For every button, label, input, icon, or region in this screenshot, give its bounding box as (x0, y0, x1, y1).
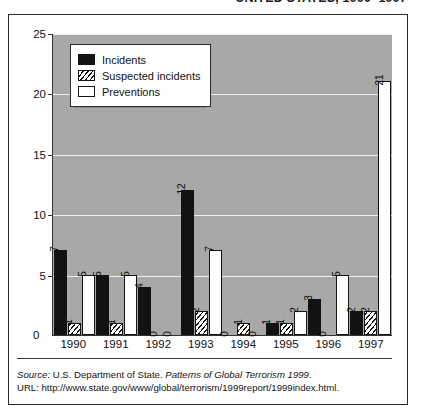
bar-value-1995-suspected: 1 (276, 319, 286, 325)
y-tick-mark-5 (48, 276, 52, 277)
bar-value-1990-incidents: 7 (50, 247, 60, 253)
y-tick-mark-15 (48, 155, 52, 156)
bar-1993-suspected: 2 (195, 311, 208, 335)
bar-value-1992-incidents: 4 (135, 283, 145, 289)
y-axis-zero-label: 0 (33, 329, 39, 341)
bar-1997-suspected: 2 (364, 311, 377, 335)
bar-1997-incidents: 2 (350, 311, 363, 335)
bar-value-1994-preventions: 0 (248, 331, 258, 337)
bar-1996-incidents: 3 (308, 299, 321, 335)
footnote-source-body: U.S. Department of State. (50, 369, 165, 380)
x-axis-label-1991: 1991 (95, 338, 138, 350)
bar-value-1993-preventions: 7 (205, 247, 215, 253)
bar-value-1992-suspected: 0 (149, 331, 159, 337)
bar-value-1996-incidents: 3 (304, 295, 314, 301)
x-axis-label-1994: 1994 (222, 338, 265, 350)
bar-group-1995: 112 (265, 34, 307, 335)
bar-group-1996: 305 (307, 34, 349, 335)
y-tick-label-5: 5 (40, 270, 46, 282)
footnote-source-italic: Patterns of Global Terrorism 1999 (165, 369, 309, 380)
bar-value-1994-incidents: 0 (220, 331, 230, 337)
chart-title-strip: UNITED STATES, 1990–1997 (0, 0, 421, 13)
plot-wrapper: 71551540012270101123052221 510152025 Inc… (52, 34, 392, 336)
y-tick-label-20: 20 (33, 88, 46, 100)
bar-1991-suspected: 1 (110, 323, 123, 335)
x-axis-label-1990: 1990 (52, 338, 95, 350)
x-axis-label-1996: 1996 (307, 338, 350, 350)
chart-legend: IncidentsSuspected incidentsPreventions (70, 44, 211, 107)
bar-value-1995-incidents: 1 (262, 319, 272, 325)
bar-group-1997: 2221 (350, 34, 392, 335)
x-axis-label-1993: 1993 (180, 338, 223, 350)
legend-swatch-incidents-icon (78, 54, 95, 65)
figure-frame: 71551540012270101123052221 510152025 Inc… (8, 14, 408, 405)
legend-label-suspected: Suspected incidents (102, 70, 200, 82)
footnote-url[interactable]: http://www.state.gov/www/global/terroris… (39, 382, 339, 393)
bar-value-1990-preventions: 5 (78, 271, 88, 277)
legend-swatch-preventions-icon (78, 86, 95, 97)
footnote-block: Source: U.S. Department of State. Patter… (17, 358, 397, 394)
y-tick-mark-20 (48, 94, 52, 95)
footnote-source-prefix: Source: (17, 369, 50, 380)
bar-1993-preventions: 7 (209, 250, 222, 335)
chart-title: UNITED STATES, 1990–1997 (0, 0, 421, 5)
bar-1990-suspected: 1 (68, 323, 81, 335)
x-axis-label-1992: 1992 (137, 338, 180, 350)
bar-1993-incidents: 12 (181, 190, 194, 335)
legend-item-suspected: Suspected incidents (78, 68, 200, 83)
bar-1991-incidents: 5 (96, 275, 109, 335)
x-axis-labels: 19901991199219931994199519961997 (52, 338, 392, 350)
bar-1995-suspected: 1 (280, 323, 293, 335)
legend-label-preventions: Preventions (102, 86, 160, 98)
footnote-source-suffix: . (309, 369, 312, 380)
y-tick-label-10: 10 (33, 209, 46, 221)
bar-value-1992-preventions: 0 (163, 331, 173, 337)
bar-value-1997-incidents: 2 (347, 307, 357, 313)
x-axis-label-1997: 1997 (350, 338, 393, 350)
legend-label-incidents: Incidents (102, 54, 146, 66)
footnote-divider (17, 358, 392, 359)
bar-value-1993-suspected: 2 (191, 307, 201, 313)
bar-value-1991-incidents: 5 (93, 271, 103, 277)
bar-value-1994-suspected: 1 (234, 319, 244, 325)
bar-value-1995-preventions: 2 (290, 307, 300, 313)
footnote-source-line: Source: U.S. Department of State. Patter… (17, 368, 397, 381)
y-tick-label-15: 15 (33, 149, 46, 161)
footnote-url-prefix: URL: (17, 382, 39, 393)
bar-1990-preventions: 5 (82, 275, 95, 335)
chart-page: UNITED STATES, 1990–1997 715515400122701… (0, 0, 421, 420)
x-axis-label-1995: 1995 (265, 338, 308, 350)
bar-value-1991-suspected: 1 (107, 319, 117, 325)
bar-value-1990-suspected: 1 (64, 319, 74, 325)
bar-group-1994: 010 (223, 34, 265, 335)
y-tick-mark-10 (48, 215, 52, 216)
bar-value-1996-preventions: 5 (332, 271, 342, 277)
bar-value-1997-preventions: 21 (375, 75, 385, 86)
bar-value-1993-incidents: 12 (177, 183, 187, 194)
bar-value-1997-suspected: 2 (361, 307, 371, 313)
legend-item-incidents: Incidents (78, 52, 200, 67)
bar-value-1991-preventions: 5 (121, 271, 131, 277)
bar-value-1996-suspected: 0 (318, 331, 328, 337)
y-tick-mark-25 (48, 34, 52, 35)
legend-item-preventions: Preventions (78, 84, 200, 99)
bar-1996-preventions: 5 (336, 275, 349, 335)
y-tick-label-25: 25 (33, 28, 46, 40)
legend-swatch-suspected-icon (78, 70, 95, 81)
footnote-url-line: URL: http://www.state.gov/www/global/ter… (17, 381, 397, 394)
bar-1992-incidents: 4 (138, 287, 151, 335)
bar-1997-preventions: 21 (378, 81, 391, 335)
bar-1995-preventions: 2 (294, 311, 307, 335)
